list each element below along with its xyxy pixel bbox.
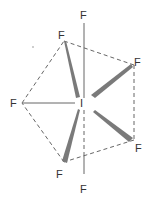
if7-structure-diagram: I F F F F F F F [0, 0, 151, 203]
atom-label-f-lower-left: F [56, 168, 63, 180]
atom-label-f-lower-right: F [135, 142, 142, 154]
atom-label-f-left: F [10, 97, 17, 109]
wedge-bond-upper-left [64, 41, 80, 98]
central-atom-label: I [80, 97, 83, 109]
wedge-bond-lower-right [93, 110, 133, 142]
atom-label-f-upper-left: F [58, 29, 65, 41]
wedge-bond-upper-right [91, 64, 133, 98]
atom-label-f-upper-right: F [134, 56, 141, 68]
atom-label-f-axial-bottom: F [80, 183, 87, 195]
wedge-bond-lower-left [62, 109, 80, 163]
stray-dot [32, 46, 33, 47]
atom-label-f-axial-top: F [80, 9, 87, 21]
equatorial-pentagon [22, 41, 134, 162]
